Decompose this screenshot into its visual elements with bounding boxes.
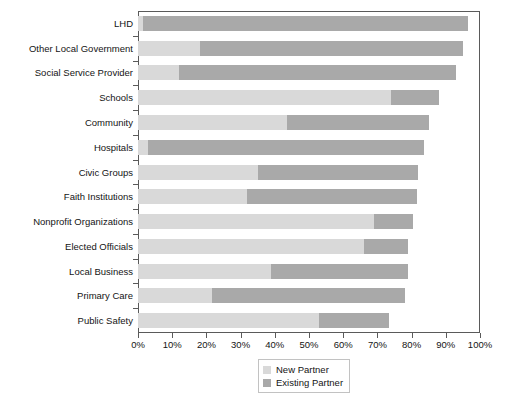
bar-segment-existing-partner [212,288,405,303]
bar-row [138,239,480,254]
legend-label: Existing Partner [276,377,343,388]
y-axis-tick [133,209,138,210]
y-axis-label: LHD [0,18,133,29]
bar-row [138,189,480,204]
bar-segment-existing-partner [200,41,463,56]
bar-segment-new-partner [138,239,364,254]
y-axis-label: Civic Groups [0,167,133,178]
x-axis-tick [343,333,344,338]
bar-row [138,264,480,279]
x-axis-tick [412,333,413,338]
y-axis-tick [133,308,138,309]
legend-item: Existing Partner [263,376,343,389]
x-axis-tick [309,333,310,338]
y-axis-tick [133,135,138,136]
bar-segment-new-partner [138,165,258,180]
y-axis-label: Other Local Government [0,43,133,54]
bar-row [138,140,480,155]
y-axis-tick [133,283,138,284]
bar-segment-new-partner [138,41,200,56]
x-axis-tick-label: 100% [460,339,500,351]
y-axis-label: Social Service Provider [0,67,133,78]
x-axis-tick [446,333,447,338]
bar-row [138,165,480,180]
y-axis-tick [133,234,138,235]
y-axis-tick [133,36,138,37]
y-axis-tick [133,160,138,161]
stacked-bar-chart: LHDOther Local GovernmentSocial Service … [0,0,508,401]
bar-segment-existing-partner [143,16,468,31]
legend-label: New Partner [276,364,329,375]
y-axis-labels: LHDOther Local GovernmentSocial Service … [0,11,133,333]
y-axis-label: Nonprofit Organizations [0,216,133,227]
bar-row [138,41,480,56]
bar-segment-new-partner [138,65,179,80]
x-axis: 0%10%20%30%40%50%60%70%80%90%100% [138,333,480,357]
bar-segment-new-partner [138,264,271,279]
x-axis-tick [480,333,481,338]
bar-segment-existing-partner [247,189,416,204]
bar-segment-existing-partner [148,140,423,155]
y-axis-label: Local Business [0,266,133,277]
y-axis-label: Elected Officials [0,241,133,252]
y-axis-label: Faith Institutions [0,191,133,202]
y-axis-tick [133,184,138,185]
legend-swatch-icon [263,379,271,387]
legend-item: New Partner [263,363,343,376]
bar-segment-existing-partner [364,239,408,254]
y-axis-label: Hospitals [0,142,133,153]
bar-segment-existing-partner [374,214,413,229]
chart-legend: New PartnerExisting Partner [258,359,350,393]
bar-row [138,288,480,303]
bar-segment-new-partner [138,140,148,155]
x-axis-tick [138,333,139,338]
legend-swatch-icon [263,366,271,374]
bar-row [138,90,480,105]
x-axis-tick [275,333,276,338]
bar-segment-new-partner [138,90,391,105]
y-axis-label: Public Safety [0,315,133,326]
x-axis-tick [377,333,378,338]
bar-segment-existing-partner [179,65,456,80]
x-axis-tick [206,333,207,338]
bar-row [138,65,480,80]
bar-segment-new-partner [138,214,374,229]
bar-row [138,214,480,229]
bar-segment-existing-partner [391,90,439,105]
bar-segment-existing-partner [319,313,389,328]
bar-segment-existing-partner [271,264,408,279]
y-axis-label: Primary Care [0,290,133,301]
bar-segment-new-partner [138,313,319,328]
bars-layer [138,11,480,333]
y-axis-tick [133,61,138,62]
y-axis-label: Community [0,117,133,128]
bar-segment-existing-partner [287,115,429,130]
bar-row [138,16,480,31]
bar-row [138,115,480,130]
y-axis-label: Schools [0,92,133,103]
x-axis-tick [172,333,173,338]
y-axis-tick [133,110,138,111]
bar-segment-new-partner [138,115,287,130]
y-axis-tick [133,259,138,260]
bar-segment-existing-partner [258,165,419,180]
y-axis-tick [133,85,138,86]
bar-segment-new-partner [138,288,212,303]
bar-segment-new-partner [138,189,247,204]
bar-row [138,313,480,328]
x-axis-tick [241,333,242,338]
